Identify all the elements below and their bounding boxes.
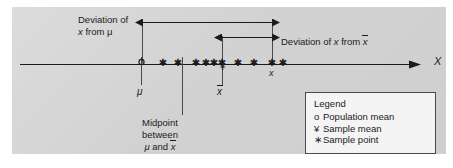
- deviation-from-mu-line2: from μ: [83, 26, 113, 37]
- legend-item-sample-mean-label: Sample mean: [323, 123, 382, 134]
- deviation-from-mu-label: Deviation of x from μ: [78, 14, 128, 37]
- deviation-from-xbar-prefix: Deviation of: [281, 36, 334, 47]
- mu-axis-label: μ: [137, 86, 142, 98]
- legend-item-sample-point-label: Sample point: [323, 134, 378, 145]
- sample-mean-icon: ¥: [314, 123, 323, 135]
- legend-item-sample-mean: ¥Sample mean: [314, 123, 435, 135]
- legend-title: Legend: [314, 98, 435, 109]
- deviation-from-xbar-xbar: x: [363, 36, 368, 48]
- sample-point-star: ✱: [159, 57, 167, 68]
- sample-point-star: ✱: [234, 57, 242, 68]
- sample-point-icon: ∗: [314, 134, 323, 146]
- legend-item-sample-point: ∗Sample point: [314, 134, 435, 146]
- sample-point-star: ✱: [192, 57, 200, 68]
- xbar-axis-label-text: x: [217, 86, 222, 98]
- midpoint-line1: Midpoint: [142, 117, 178, 129]
- legend-item-population-mean-label: Population mean: [323, 111, 394, 122]
- deviation-from-mu-line1: Deviation of: [78, 14, 128, 25]
- midpoint-xbar: x: [171, 141, 176, 153]
- sample-point-star: ✱: [268, 57, 276, 68]
- population-mean-icon: o: [314, 111, 323, 123]
- xbar-axis-label: x: [217, 86, 222, 98]
- sample-point-star: ✱: [250, 57, 258, 68]
- deviation-diagram-figure: ✱ ✱ ✱ ✱ ✱ ✱ ✱ ✱ ✱ ✱ ¥ Deviation of x fro…: [0, 0, 453, 168]
- axis-name-label: X: [434, 56, 441, 68]
- sample-point-star: ✱: [174, 57, 182, 68]
- deviation-from-xbar-label: Deviation of x from x: [281, 36, 368, 48]
- x-point-label: x: [269, 68, 274, 80]
- svg-text:¥: ¥: [220, 62, 226, 72]
- legend-item-population-mean: oPopulation mean: [314, 111, 435, 123]
- deviation-from-xbar-mid: from: [339, 36, 363, 47]
- legend-box: Legend oPopulation mean ¥Sample mean ∗Sa…: [305, 92, 436, 154]
- sample-point-star: ✱: [279, 57, 287, 68]
- midpoint-label: Midpoint between μ and x: [142, 117, 178, 153]
- midpoint-and: and: [150, 141, 171, 152]
- sample-mean-marker: ¥: [220, 62, 226, 72]
